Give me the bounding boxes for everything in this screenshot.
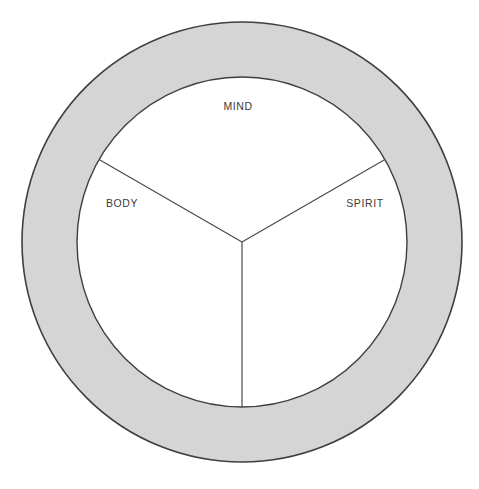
sector-label-spirit: SPIRIT (346, 197, 383, 209)
diagram-canvas: MIND BODY SPIRIT (0, 0, 479, 489)
sector-label-body: BODY (106, 197, 138, 209)
mind-body-spirit-diagram: MIND BODY SPIRIT (0, 0, 479, 489)
sector-label-mind: MIND (223, 100, 252, 112)
